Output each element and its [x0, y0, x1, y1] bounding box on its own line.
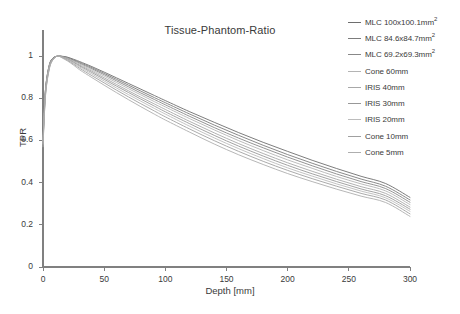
legend-item-label: Cone 5mm [365, 148, 404, 157]
legend-item-label: MLC 100x100.1mm2 [365, 18, 437, 27]
legend-item-label: IRIS 30mm [365, 99, 405, 108]
x-tick-label: 300 [395, 275, 425, 284]
legend-line-icon [348, 103, 361, 104]
x-tick-label: 250 [334, 275, 364, 284]
chart-legend: MLC 100x100.1mm2MLC 84.6x84.7mm2MLC 69.2… [348, 14, 460, 161]
y-tick-label: 0.2 [7, 220, 33, 229]
legend-line-icon [348, 152, 361, 153]
legend-line-icon [348, 71, 361, 72]
legend-item-label: IRIS 20mm [365, 115, 405, 124]
y-tick-label: 0 [7, 262, 33, 271]
legend-item-label: MLC 69.2x69.3mm2 [365, 50, 435, 59]
legend-item[interactable]: Cone 5mm [348, 144, 460, 160]
x-tick-label: 100 [150, 275, 180, 284]
legend-item-label: MLC 84.6x84.7mm2 [365, 34, 435, 43]
legend-item-label: Cone 10mm [365, 132, 408, 141]
legend-line-icon [348, 87, 361, 88]
x-tick-label: 50 [89, 275, 119, 284]
legend-item[interactable]: MLC 69.2x69.3mm2 [348, 47, 460, 63]
y-tick-label: 0.8 [7, 93, 33, 102]
y-tick-label: 0.6 [7, 135, 33, 144]
legend-item[interactable]: IRIS 40mm [348, 79, 460, 95]
chart-title: Tissue-Phantom-Ratio [120, 24, 320, 36]
x-tick-label: 150 [212, 275, 242, 284]
x-axis-title: Depth [mm] [160, 285, 300, 296]
legend-item-label: IRIS 40mm [365, 83, 405, 92]
legend-line-icon [348, 119, 361, 120]
legend-label-superscript: 2 [432, 32, 435, 38]
legend-item[interactable]: IRIS 20mm [348, 112, 460, 128]
legend-item[interactable]: Cone 10mm [348, 128, 460, 144]
legend-line-icon [348, 22, 361, 23]
y-tick-label: 0.4 [7, 178, 33, 187]
legend-item[interactable]: MLC 100x100.1mm2 [348, 14, 460, 30]
legend-item[interactable]: Cone 60mm [348, 63, 460, 79]
legend-line-icon [348, 38, 361, 39]
legend-item[interactable]: IRIS 30mm [348, 95, 460, 111]
x-tick-label: 0 [28, 275, 58, 284]
legend-label-superscript: 2 [434, 16, 437, 22]
y-tick-label: 1 [7, 51, 33, 60]
legend-line-icon [348, 136, 361, 137]
legend-item[interactable]: MLC 84.6x84.7mm2 [348, 30, 460, 46]
x-tick-label: 200 [273, 275, 303, 284]
legend-item-label: Cone 60mm [365, 67, 408, 76]
legend-label-superscript: 2 [432, 49, 435, 55]
legend-line-icon [348, 54, 361, 55]
chart-container: Tissue-Phantom-Ratio Depth [mm] TPR 0501… [0, 0, 460, 314]
